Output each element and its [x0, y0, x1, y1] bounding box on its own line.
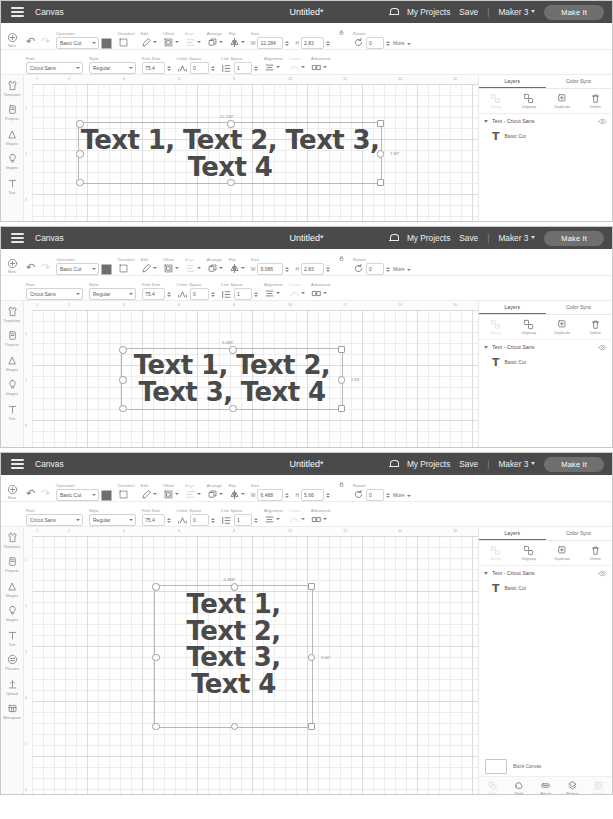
my-projects-link[interactable]: My Projects: [407, 233, 450, 243]
line-space-input-stepper[interactable]: [254, 292, 258, 297]
sidebar-item-text[interactable]: Text: [1, 177, 23, 195]
advanced-icon-button[interactable]: [311, 62, 327, 74]
hamburger-icon[interactable]: [11, 233, 24, 243]
lock-ratio-toggle[interactable]: [333, 12, 350, 49]
rotate-input[interactable]: 0: [366, 489, 384, 501]
layer-child-row[interactable]: TBasic Cut: [479, 580, 612, 596]
design-canvas[interactable]: 12468101214161234569.086"2.83"Text 1, Te…: [24, 301, 478, 448]
line-space-input[interactable]: 1: [234, 288, 252, 300]
sidebar-item-images[interactable]: Images: [1, 379, 23, 397]
height-input-stepper[interactable]: [326, 267, 330, 272]
make-it-button[interactable]: Make It: [544, 231, 604, 246]
style-select[interactable]: Regular: [89, 62, 136, 74]
line-space-input-stepper[interactable]: [254, 66, 258, 71]
rotate-icon-btn[interactable]: [353, 489, 364, 501]
delete-button[interactable]: Delete: [579, 319, 612, 335]
letter-space-input[interactable]: 0: [190, 514, 209, 526]
font-size-input[interactable]: 75.4: [142, 62, 165, 74]
tab-color-sync[interactable]: Color Sync: [546, 75, 613, 88]
canvas-label[interactable]: Canvas: [35, 233, 64, 243]
sidebar-item-templates[interactable]: Templates: [1, 531, 23, 549]
font-size-input-stepper[interactable]: [167, 518, 171, 523]
redo-button[interactable]: ↷: [38, 487, 53, 501]
line-space-input-stepper[interactable]: [254, 518, 258, 523]
lock-ratio-toggle[interactable]: [333, 238, 350, 275]
font-size-input[interactable]: 75.4: [142, 514, 165, 526]
selection-box[interactable]: Text 1, Text 2, Text 3, Text 4: [78, 122, 382, 184]
redo-button[interactable]: ↷: [38, 261, 53, 275]
alignment-icon-button[interactable]: [264, 514, 280, 526]
group-button[interactable]: Group: [479, 319, 512, 335]
contour-button[interactable]: Contour: [585, 780, 612, 795]
letter-space-input[interactable]: 0: [190, 288, 209, 300]
group-button[interactable]: Group: [479, 93, 512, 109]
eye-icon[interactable]: [598, 343, 607, 352]
duplicate-button[interactable]: Duplicate: [546, 545, 579, 561]
font-size-input[interactable]: 75.4: [142, 288, 165, 300]
save-button[interactable]: Save: [459, 7, 478, 17]
sidebar-item-images[interactable]: Images: [1, 153, 23, 171]
alignment-icon-button[interactable]: [264, 62, 280, 74]
more-menu-button[interactable]: More: [393, 266, 410, 275]
more-menu-button[interactable]: More: [393, 492, 410, 501]
rotate-input-stepper[interactable]: [386, 41, 390, 46]
eye-icon[interactable]: [598, 569, 607, 578]
more-menu-button[interactable]: More: [393, 40, 410, 49]
font-select[interactable]: Cricut Sans: [26, 288, 83, 300]
letter-space-input[interactable]: 0: [190, 62, 209, 74]
undo-button[interactable]: ↶: [23, 35, 38, 49]
layer-group-row[interactable]: Text - Cricut Sans: [479, 340, 612, 354]
layer-child-row[interactable]: TBasic Cut: [479, 354, 612, 370]
layer-group-row[interactable]: Text - Cricut Sans: [479, 114, 612, 128]
machine-selector[interactable]: Maker 3: [498, 459, 535, 469]
sidebar-item-monogram[interactable]: Monogram: [1, 703, 23, 721]
notification-bell-icon[interactable]: [389, 459, 398, 469]
tab-layers[interactable]: Layers: [479, 75, 546, 88]
flatten-button[interactable]: Flatten: [559, 780, 586, 795]
selection-box[interactable]: Text 1, Text 2, Text 3, Text 4: [121, 348, 343, 410]
width-input-stepper[interactable]: [285, 267, 289, 272]
eye-icon[interactable]: [598, 117, 607, 126]
lock-ratio-toggle[interactable]: [333, 464, 350, 501]
sidebar-item-templates[interactable]: Templates: [1, 305, 23, 323]
delete-button[interactable]: Delete: [579, 545, 612, 561]
duplicate-button[interactable]: Duplicate: [546, 319, 579, 335]
delete-button[interactable]: Delete: [579, 93, 612, 109]
advanced-icon-button[interactable]: [311, 514, 327, 526]
tab-layers[interactable]: Layers: [479, 527, 546, 540]
height-input-stepper[interactable]: [326, 41, 330, 46]
sidebar-item-shapes[interactable]: Shapes: [1, 128, 23, 146]
duplicate-button[interactable]: Duplicate: [546, 93, 579, 109]
sidebar-item-shapes[interactable]: Shapes: [1, 354, 23, 372]
sidebar-item-projects[interactable]: Projects: [1, 104, 23, 122]
save-button[interactable]: Save: [459, 233, 478, 243]
sidebar-item-text[interactable]: Text: [1, 629, 23, 647]
curve-icon-button[interactable]: [289, 62, 305, 74]
line-space-input[interactable]: 1: [234, 62, 252, 74]
advanced-icon-button[interactable]: [311, 288, 327, 300]
blank-canvas-row[interactable]: Blank Canvas: [479, 756, 612, 776]
height-input-stepper[interactable]: [326, 493, 330, 498]
canvas-text-object[interactable]: Text 1, Text 2, Text 3, Text 4: [79, 127, 381, 180]
canvas-text-object[interactable]: Text 1, Text 2, Text 3, Text 4: [155, 591, 312, 697]
color-swatch[interactable]: [101, 264, 112, 275]
undo-button[interactable]: ↶: [23, 487, 38, 501]
color-swatch[interactable]: [101, 38, 112, 49]
chevron-down-icon[interactable]: [484, 120, 488, 123]
ungroup-button[interactable]: Ungroup: [512, 319, 545, 335]
hamburger-icon[interactable]: [11, 459, 24, 469]
letter-space-input-stepper[interactable]: [211, 66, 215, 71]
hamburger-icon[interactable]: [11, 7, 24, 17]
style-select[interactable]: Regular: [89, 514, 136, 526]
ungroup-button[interactable]: Ungroup: [512, 93, 545, 109]
curve-icon-button[interactable]: [289, 514, 305, 526]
tab-color-sync[interactable]: Color Sync: [546, 301, 613, 314]
width-input-stepper[interactable]: [285, 41, 289, 46]
make-it-button[interactable]: Make It: [544, 457, 604, 472]
chevron-down-icon[interactable]: [484, 346, 488, 349]
machine-selector[interactable]: Maker 3: [498, 233, 535, 243]
rotate-input[interactable]: 0: [366, 263, 384, 275]
line-space-input[interactable]: 1: [234, 514, 252, 526]
layer-child-row[interactable]: TBasic Cut: [479, 128, 612, 144]
design-canvas[interactable]: 124681012141612345612.284"2.83"Text 1, T…: [24, 75, 478, 222]
